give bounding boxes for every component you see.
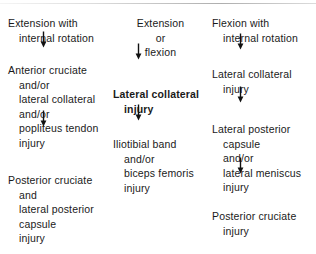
flow-node-line: Posterior cruciate (212, 209, 312, 224)
flow-node-line: and (8, 188, 108, 203)
flow-node-line: biceps femoris (113, 166, 208, 181)
down-arrow-icon (212, 86, 316, 103)
flow-node-line: injury (212, 180, 312, 195)
flow-node-line: capsule (8, 217, 108, 232)
flow-node-line: capsule (212, 137, 312, 152)
down-arrow-icon (212, 157, 316, 174)
flow-node-line: injury (8, 136, 108, 151)
flow-node-line: Lateral posterior (212, 122, 312, 137)
down-arrow-icon (212, 33, 316, 50)
flow-node-line: injury (212, 224, 312, 239)
flow-node-line: Extension with (8, 16, 108, 31)
flow-node-line: Anterior cruciate (8, 63, 108, 78)
flow-node-line: and/or (8, 78, 108, 93)
flow-node-line: Lateral collateral (212, 67, 312, 82)
flow-node-line: Iliotibial band (113, 137, 208, 152)
down-arrow-icon (113, 104, 229, 121)
top-divider-rule (0, 3, 316, 4)
flow-node-extension-internal-rotation-second-injury: Posterior cruciateandlateral posteriorca… (8, 173, 108, 246)
flow-node-line: Posterior cruciate (8, 173, 108, 188)
flow-node-extension-or-flexion-second-injury: Iliotibial bandand/orbiceps femorisinjur… (113, 137, 208, 195)
flow-node-flexion-internal-rotation-third-injury: Posterior cruciateinjury (212, 209, 312, 238)
flow-node-line: injury (113, 181, 208, 196)
flow-node-extension-internal-rotation-first-injury: Anterior cruciateand/orlateral collatera… (8, 63, 108, 151)
injury-mechanism-flow-diagram: Extension withinternal rotationAnterior … (0, 0, 316, 254)
flow-node-line: Flexion with (212, 16, 312, 31)
flow-node-line: lateral posterior (8, 202, 108, 217)
flow-node-line: lateral collateral (8, 92, 108, 107)
flow-node-line: Lateral collateral (113, 87, 208, 102)
flow-node-line: and/or (113, 152, 208, 167)
flow-node-line: injury (8, 231, 108, 246)
flow-node-line: Extension (113, 16, 208, 31)
